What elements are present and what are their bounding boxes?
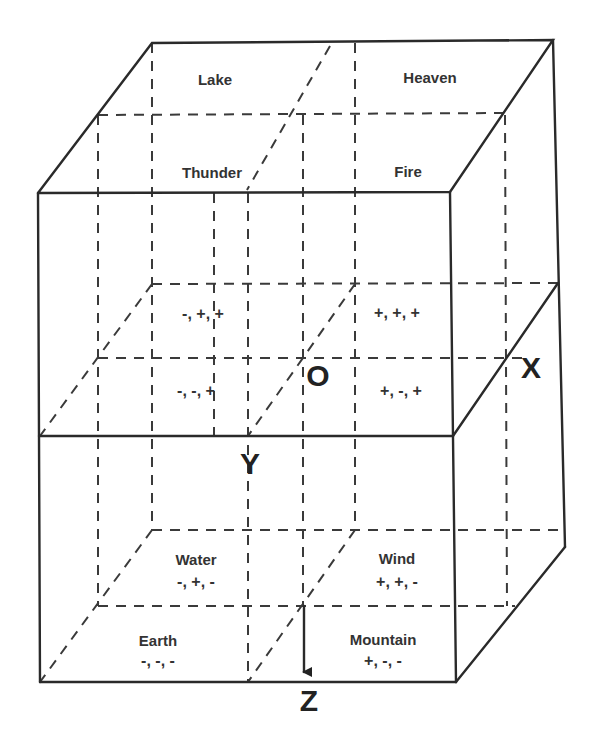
label-heaven: Heaven: [403, 69, 456, 86]
label-fire: Fire: [394, 163, 422, 180]
signs-mountain: +, -, -: [364, 652, 402, 669]
axis-label-origin: O: [306, 359, 329, 392]
axis-label-x: X: [521, 351, 541, 384]
axis-label-y: Y: [240, 447, 260, 480]
label-wind: Wind: [379, 550, 416, 567]
signs-front-right: +, -, +: [380, 382, 422, 399]
trigram-cube-diagram: Lake Heaven Thunder Fire -, +, + +, +, +…: [0, 0, 596, 756]
signs-water: -, +, -: [177, 573, 215, 590]
label-earth: Earth: [139, 632, 177, 649]
signs-wind: +, +, -: [376, 573, 418, 590]
signs-back-right: +, +, +: [374, 304, 420, 321]
label-mountain: Mountain: [350, 631, 417, 648]
axis-label-z: Z: [300, 684, 318, 717]
signs-back-left: -, +, +: [182, 305, 224, 322]
label-lake: Lake: [198, 71, 232, 88]
signs-front-left: -, -, +: [177, 382, 215, 399]
label-thunder: Thunder: [182, 164, 242, 181]
signs-earth: -, -, -: [141, 652, 175, 669]
label-water: Water: [175, 551, 216, 568]
